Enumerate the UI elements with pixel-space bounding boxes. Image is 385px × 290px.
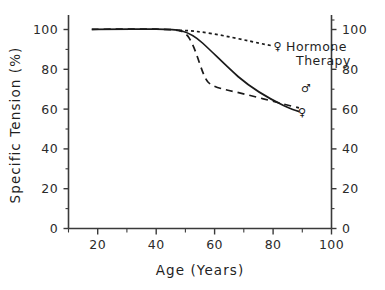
y-tick-label-right-60: 60 — [342, 102, 359, 117]
y-tick-label-left-100: 100 — [33, 22, 58, 37]
x-tick-label-80: 80 — [265, 237, 282, 252]
y-tick-label-right-20: 20 — [342, 181, 359, 196]
x-tick-label-100: 100 — [319, 237, 344, 252]
y-tick-label-left-80: 80 — [41, 62, 58, 77]
hormone-therapy-label-line2: Therapy — [295, 53, 351, 68]
y-tick-label-left-40: 40 — [41, 141, 58, 156]
x-axis-title: Age (Years) — [156, 262, 245, 278]
y-tick-label-left-60: 60 — [41, 102, 58, 117]
series-line-male — [92, 29, 299, 111]
y-tick-label-right-0: 0 — [342, 221, 350, 236]
y-tick-label-right-40: 40 — [342, 141, 359, 156]
y-axis-title: Specific Tension (%) — [7, 47, 23, 204]
y-tick-label-right-100: 100 — [342, 22, 367, 37]
hormone-therapy-label-line1: Hormone — [286, 39, 347, 54]
chart-plot-area: 0 20 40 60 80 100 0 20 40 60 80 100 — [0, 0, 385, 290]
male-symbol-icon: ♂ — [301, 82, 311, 95]
y-tick-label-left-20: 20 — [41, 181, 58, 196]
x-tick-label-60: 60 — [206, 237, 223, 252]
x-tick-label-40: 40 — [148, 237, 165, 252]
series-line-hormone-therapy — [179, 30, 273, 46]
series-line-female — [92, 29, 299, 108]
hormone-therapy-female-symbol-icon: ♀ — [273, 40, 281, 53]
female-symbol-icon: ♀ — [298, 106, 306, 119]
x-tick-label-20: 20 — [89, 237, 106, 252]
x-axis-major-ticks — [98, 229, 332, 235]
y-tick-label-left-0: 0 — [50, 221, 58, 236]
chart-figure: 0 20 40 60 80 100 0 20 40 60 80 100 — [0, 0, 385, 290]
